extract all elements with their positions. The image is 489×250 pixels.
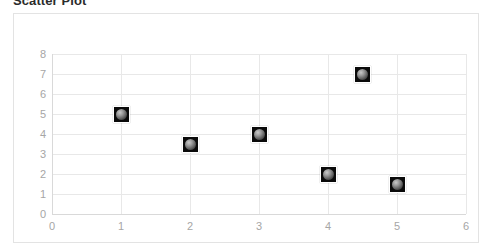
data-point-bead — [185, 139, 196, 150]
y-axis-line — [52, 54, 53, 214]
x-axis-line — [52, 214, 466, 215]
data-point-marker[interactable] — [354, 66, 371, 83]
data-point-marker[interactable] — [251, 126, 268, 143]
scatter-plot-chart: Scatter Plot 012345678 0123456 — [0, 0, 489, 250]
x-axis-tick-label: 3 — [244, 221, 274, 232]
x-axis-tick-label: 4 — [313, 221, 343, 232]
y-axis-tick-label: 4 — [24, 129, 46, 140]
y-axis-tick-label: 5 — [24, 109, 46, 120]
x-axis-tick-labels: 0123456 — [52, 221, 466, 237]
y-axis-tick-label: 3 — [24, 149, 46, 160]
data-point-bead — [392, 179, 403, 190]
data-point-marker[interactable] — [182, 136, 199, 153]
x-axis-tick-label: 1 — [106, 221, 136, 232]
gridline-vertical — [190, 54, 191, 214]
plot-area — [52, 54, 466, 214]
y-axis-tick-label: 6 — [24, 89, 46, 100]
data-point-bead — [254, 129, 265, 140]
x-axis-tick-label: 2 — [175, 221, 205, 232]
data-point-marker[interactable] — [113, 106, 130, 123]
y-axis-tick-label: 7 — [24, 69, 46, 80]
gridline-vertical — [328, 54, 329, 214]
y-axis-tick-label: 2 — [24, 169, 46, 180]
y-axis-tick-labels: 012345678 — [20, 54, 46, 214]
x-axis-tick-label: 6 — [451, 221, 481, 232]
y-axis-tick-label: 0 — [24, 209, 46, 220]
data-point-bead — [357, 69, 368, 80]
gridline-vertical — [466, 54, 467, 214]
x-axis-tick-label: 0 — [37, 221, 67, 232]
chart-title: Scatter Plot — [13, 0, 313, 11]
data-point-bead — [116, 109, 127, 120]
gridline-vertical — [121, 54, 122, 214]
y-axis-tick-label: 8 — [24, 49, 46, 60]
data-point-marker[interactable] — [389, 176, 406, 193]
y-axis-tick-label: 1 — [24, 189, 46, 200]
x-axis-tick-label: 5 — [382, 221, 412, 232]
data-point-marker[interactable] — [320, 166, 337, 183]
data-point-bead — [323, 169, 334, 180]
